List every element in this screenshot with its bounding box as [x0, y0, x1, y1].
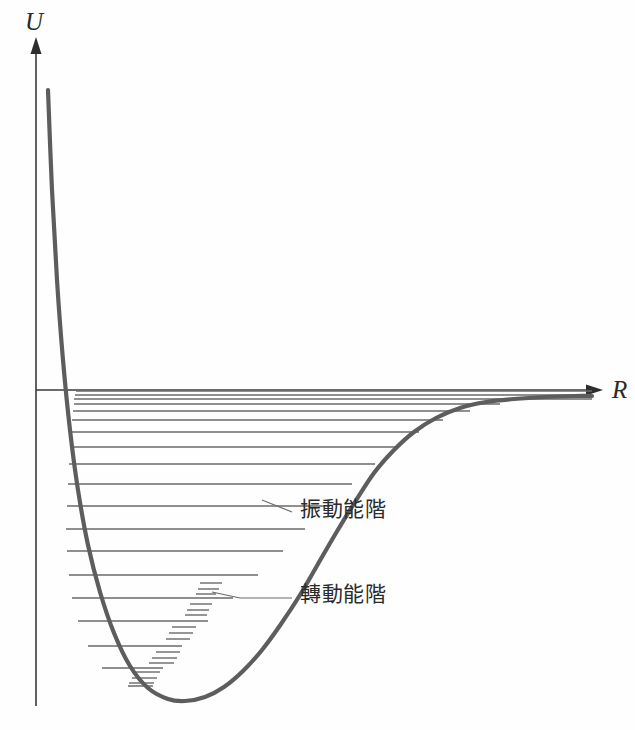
- y-axis-arrowhead: [31, 37, 42, 54]
- y-axis-label: U: [25, 8, 45, 35]
- annotation-label-vibrational: 振動能階: [300, 497, 386, 521]
- annotation-label-rotational: 轉動能階: [300, 582, 386, 606]
- morse-potential-diagram: U R 振動能階轉動能階: [0, 0, 635, 730]
- x-axis-arrowhead: [586, 385, 603, 396]
- vibrational-levels-group: [66, 391, 592, 686]
- x-axis-label: R: [611, 376, 627, 403]
- leader-line-rotational: [212, 592, 292, 598]
- potential-energy-figure: U R 振動能階轉動能階: [0, 0, 635, 730]
